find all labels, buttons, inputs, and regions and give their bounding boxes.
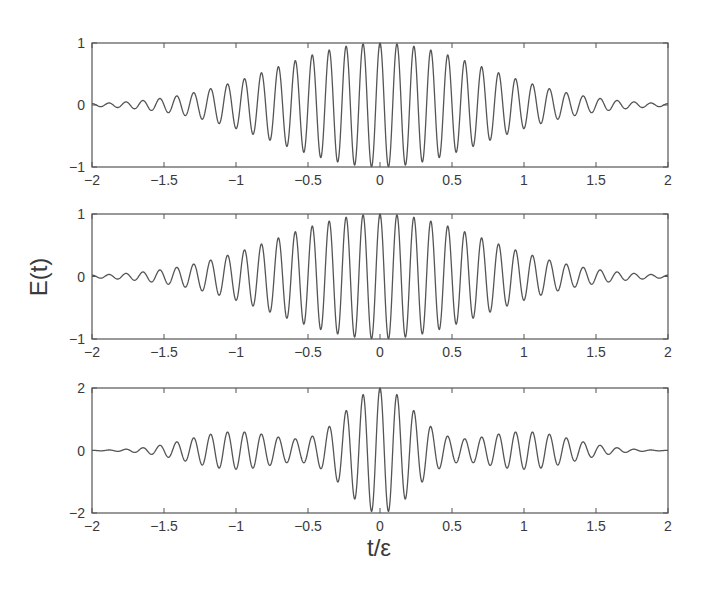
y-tick-label: −2 [69, 505, 85, 521]
plot-frame [92, 43, 668, 167]
y-axis-label: E(t) [25, 258, 52, 297]
y-tick-label: 0 [77, 97, 85, 113]
x-tick-label: −0.5 [294, 172, 322, 188]
y-tick-label: 1 [77, 206, 85, 222]
x-tick-label: −2 [84, 518, 100, 534]
figure: −2−1.5−1−0.500.511.52−101 −2−1.5−1−0.500… [0, 0, 707, 597]
x-tick-label: −2 [84, 172, 100, 188]
y-tick-label: −1 [69, 331, 85, 347]
y-tick-label: −1 [69, 159, 85, 175]
y-tick-label: 2 [77, 380, 85, 396]
x-tick-label: 1.5 [586, 344, 606, 360]
x-tick-label: 1 [520, 172, 528, 188]
x-tick-label: −1.5 [150, 518, 178, 534]
x-tick-label: −0.5 [294, 344, 322, 360]
x-tick-label: 2 [664, 172, 672, 188]
x-tick-label: 0 [376, 518, 384, 534]
x-tick-label: 2 [664, 518, 672, 534]
plot-frame [92, 388, 668, 513]
signal-curve [92, 388, 668, 511]
x-tick-label: −1 [228, 172, 244, 188]
x-tick-label: 1.5 [586, 172, 606, 188]
x-tick-label: 0.5 [442, 518, 462, 534]
x-tick-label: 1.5 [586, 518, 606, 534]
x-tick-label: −2 [84, 344, 100, 360]
y-tick-label: 0 [77, 443, 85, 459]
x-tick-label: 1 [520, 518, 528, 534]
x-axis-label: t/ε [367, 534, 391, 561]
panel-middle: −2−1.5−1−0.500.511.52−101 [69, 206, 672, 360]
x-tick-label: −1 [228, 518, 244, 534]
x-tick-label: 0.5 [442, 172, 462, 188]
y-tick-label: 1 [77, 35, 85, 51]
x-tick-label: −1.5 [150, 172, 178, 188]
x-tick-label: 0.5 [442, 344, 462, 360]
x-tick-label: −0.5 [294, 518, 322, 534]
x-tick-label: 1 [520, 344, 528, 360]
signal-curve [92, 43, 668, 167]
x-tick-label: 0 [376, 172, 384, 188]
x-tick-label: −1.5 [150, 344, 178, 360]
panel-bottom: −2−1.5−1−0.500.511.52−202 [69, 380, 672, 534]
x-tick-label: 0 [376, 344, 384, 360]
signal-curve [92, 214, 668, 339]
plot-frame [92, 214, 668, 339]
x-tick-label: −1 [228, 344, 244, 360]
panel-top: −2−1.5−1−0.500.511.52−101 [69, 35, 672, 188]
x-tick-label: 2 [664, 344, 672, 360]
y-tick-label: 0 [77, 269, 85, 285]
